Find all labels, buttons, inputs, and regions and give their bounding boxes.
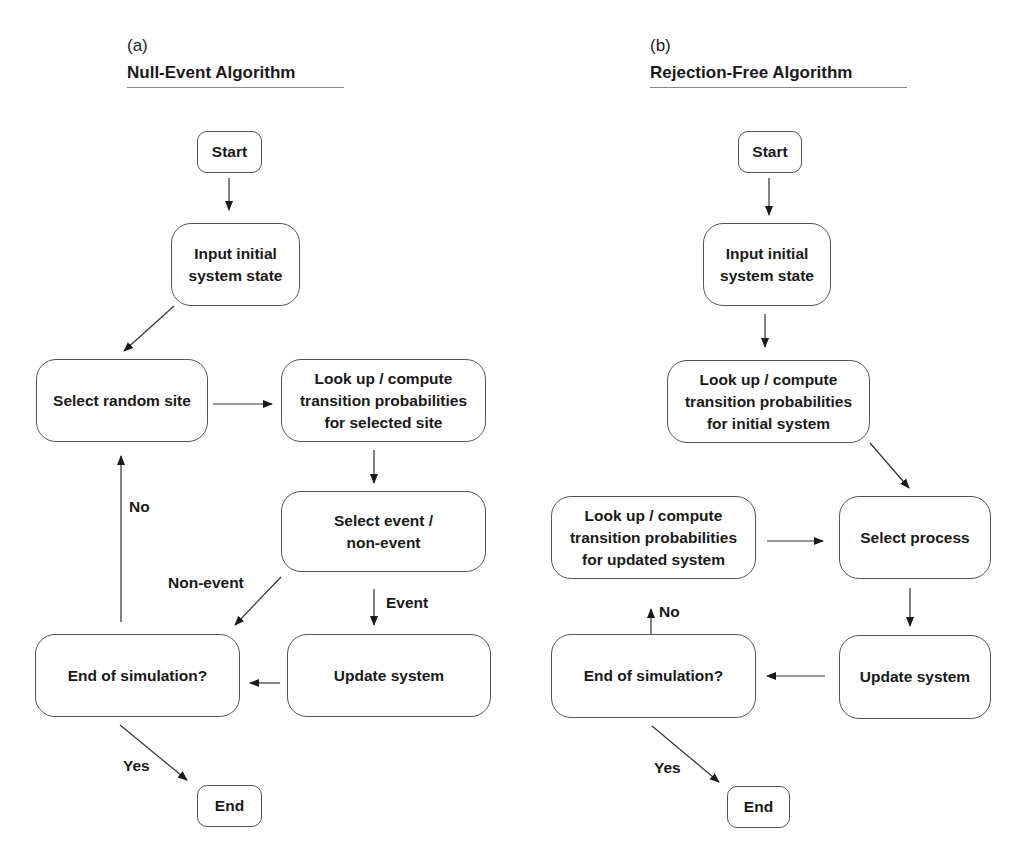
arrow-input-to-select-site — [124, 306, 174, 351]
label-b-yes: Yes — [654, 759, 681, 777]
label-a-event: Event — [386, 594, 428, 612]
label-b-no: No — [659, 603, 680, 621]
label-a-yes: Yes — [123, 757, 150, 775]
node-a-update-system: Update system — [287, 634, 491, 717]
node-a-select-random-site: Select random site — [36, 359, 208, 442]
node-b-end-of-simulation: End of simulation? — [551, 634, 756, 718]
panel-a-title: Null-Event Algorithm — [127, 63, 344, 88]
node-a-select-event: Select event / non-event — [281, 491, 486, 572]
panel-b-letter: (b) — [650, 36, 671, 56]
node-a-end: End — [197, 785, 262, 827]
node-b-lookup-updated: Look up / compute transition probabiliti… — [551, 496, 756, 579]
node-a-start: Start — [197, 131, 262, 173]
node-a-input: Input initial system state — [171, 223, 300, 306]
label-a-non-event: Non-event — [168, 574, 244, 592]
label-a-no: No — [129, 498, 150, 516]
node-b-end: End — [727, 786, 790, 828]
node-b-start: Start — [738, 131, 802, 173]
node-a-end-of-simulation: End of simulation? — [35, 634, 240, 717]
node-b-input: Input initial system state — [703, 223, 831, 306]
node-b-select-process: Select process — [839, 496, 991, 579]
node-a-lookup: Look up / compute transition probabiliti… — [281, 359, 486, 442]
arrow-b-lookup-to-select-process — [870, 443, 909, 488]
panel-b-title: Rejection-Free Algorithm — [650, 63, 907, 88]
node-b-lookup-initial: Look up / compute transition probabiliti… — [667, 360, 870, 443]
panel-a-letter: (a) — [127, 36, 148, 56]
node-b-update-system: Update system — [839, 635, 991, 719]
